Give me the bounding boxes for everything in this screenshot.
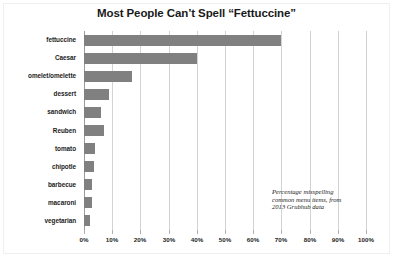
category-label-caesar: Caesar (55, 54, 76, 61)
bar-row (84, 71, 366, 82)
bar-dessert (84, 89, 109, 100)
x-tick-label-60%: 60% (247, 236, 259, 243)
bar-omelet-omelette (84, 71, 132, 82)
x-tick-label-100%: 100% (358, 236, 374, 243)
bar-row (84, 125, 366, 136)
bar-reuben (84, 125, 104, 136)
category-label-vegetarian: vegetarian (45, 217, 76, 224)
category-label-sandwich: sandwich (47, 108, 76, 115)
bar-row (84, 107, 366, 118)
x-tick-mark (197, 230, 198, 234)
bar-row (84, 215, 366, 226)
bar-row (84, 161, 366, 172)
category-label-chipotle: chipotle (52, 163, 76, 170)
x-tick-mark (310, 230, 311, 234)
bar-row (84, 53, 366, 64)
bar-row (84, 35, 366, 46)
bar-sandwich (84, 107, 101, 118)
x-tick-label-0%: 0% (80, 236, 89, 243)
category-label-macaroni: macaroni (48, 199, 76, 206)
bar-vegetarian (84, 215, 90, 226)
category-label-fettuccine: fettuccine (46, 36, 76, 43)
category-label-omelet-omelette: omelet/omelette (28, 72, 76, 79)
x-tick-mark (225, 230, 226, 234)
x-axis: 0%10%20%30%40%50%60%70%80%90%100% (84, 230, 366, 250)
bar-barbecue (84, 179, 92, 190)
x-tick-label-30%: 30% (163, 236, 175, 243)
category-label-tomato: tomato (55, 145, 76, 152)
category-label-dessert: dessert (54, 90, 76, 97)
x-tick-label-50%: 50% (219, 236, 231, 243)
annotation-line-3: 2013 Grubhub data (272, 203, 367, 211)
x-tick-mark (281, 230, 282, 234)
x-tick-label-80%: 80% (304, 236, 316, 243)
x-tick-mark (84, 230, 85, 234)
chart-annotation: Percentage misspellingcommon menu items,… (272, 188, 367, 211)
x-tick-mark (112, 230, 113, 234)
x-tick-label-90%: 90% (332, 236, 344, 243)
y-axis-category-labels: fettuccineCaesaromelet/omelettedessertsa… (0, 31, 80, 230)
annotation-line-1: Percentage misspelling (272, 188, 367, 196)
bar-row (84, 143, 366, 154)
x-tick-label-70%: 70% (275, 236, 287, 243)
bar-tomato (84, 143, 95, 154)
chart-container: Most People Can’t Spell “Fettuccine” fet… (0, 0, 393, 257)
bar-chipotle (84, 161, 94, 172)
x-tick-label-10%: 10% (106, 236, 118, 243)
x-tick-label-40%: 40% (191, 236, 203, 243)
annotation-line-2: common menu items, from (272, 196, 367, 204)
x-tick-mark (338, 230, 339, 234)
bar-caesar (84, 53, 197, 64)
x-tick-mark (169, 230, 170, 234)
category-label-barbecue: barbecue (48, 181, 76, 188)
bar-row (84, 89, 366, 100)
category-label-reuben: Reuben (53, 127, 76, 134)
chart-title: Most People Can’t Spell “Fettuccine” (0, 7, 393, 19)
bar-macaroni (84, 197, 92, 208)
x-tick-label-20%: 20% (134, 236, 146, 243)
x-tick-mark (366, 230, 367, 234)
x-tick-mark (140, 230, 141, 234)
bar-fettuccine (84, 35, 281, 46)
x-tick-mark (253, 230, 254, 234)
